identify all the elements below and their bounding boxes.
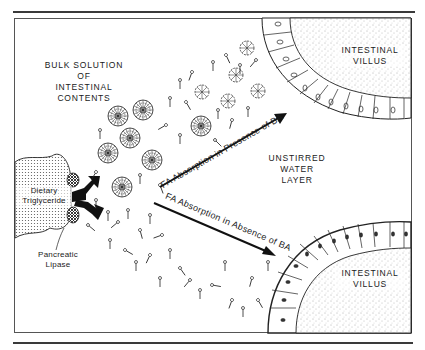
bulk-solution-line4: CONTENTS — [34, 93, 134, 104]
unstirred-line3: LAYER — [262, 175, 332, 186]
top-villus-line2: VILLUS — [335, 56, 405, 67]
bottom-villus-line1: INTESTINAL — [335, 268, 405, 279]
bulk-solution-line3: INTESTINAL — [34, 82, 134, 93]
triglyceride-label: Dietary Triglyceride — [16, 186, 72, 207]
unstirred-line2: WATER — [262, 164, 332, 175]
lipase-blob-bottom — [67, 207, 79, 223]
triglyceride-line2: Triglyceride — [16, 196, 72, 206]
top-villus-label: INTESTINAL VILLUS — [335, 45, 405, 67]
bottom-villus-label: INTESTINAL VILLUS — [335, 268, 405, 290]
unstirred-water-layer-label: UNSTIRRED WATER LAYER — [262, 153, 332, 186]
top-villus-line1: INTESTINAL — [335, 45, 405, 56]
unstirred-line1: UNSTIRRED — [262, 153, 332, 164]
lipase-line1: Pancreatic — [30, 250, 86, 260]
pancreatic-lipase-label: Pancreatic Lipase — [30, 250, 86, 271]
lipase-line2: Lipase — [30, 260, 86, 270]
bulk-solution-label: BULK SOLUTION OF INTESTINAL CONTENTS — [34, 60, 134, 104]
top-villus — [262, 18, 411, 119]
triglyceride-line1: Dietary — [16, 186, 72, 196]
bottom-villus-line2: VILLUS — [335, 279, 405, 290]
bulk-solution-line2: OF — [34, 71, 134, 82]
bulk-solution-line1: BULK SOLUTION — [34, 60, 134, 71]
lipase-blob-top — [67, 173, 79, 187]
